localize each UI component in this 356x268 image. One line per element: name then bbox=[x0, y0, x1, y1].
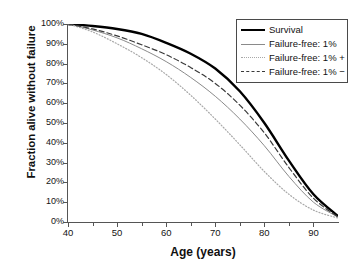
x-axis-minor-tick-mark bbox=[240, 223, 241, 226]
y-axis-tick-mark bbox=[63, 64, 68, 65]
x-axis-tick-mark bbox=[166, 223, 167, 227]
x-axis-minor-tick-mark bbox=[142, 223, 143, 226]
x-axis-tick-label: 80 bbox=[249, 227, 279, 238]
legend-line-swatch-solid-thin-icon bbox=[240, 39, 266, 49]
legend-label: Failure-free: 1% bbox=[269, 39, 337, 49]
legend-line-swatch-dashed-icon bbox=[240, 67, 266, 77]
y-axis-tick-label: 40% bbox=[30, 138, 64, 147]
y-axis-tick-mark bbox=[63, 44, 68, 45]
legend-label: Failure-free: 1% − bbox=[269, 67, 345, 77]
legend-label: Failure-free: 1% + bbox=[269, 53, 345, 63]
legend-item-failure-free-1pct-plus[interactable]: Failure-free: 1% + bbox=[240, 51, 345, 65]
x-axis-minor-tick-mark bbox=[191, 223, 192, 226]
y-axis-tick-label: 100% bbox=[30, 19, 64, 28]
y-axis-tick-label: 70% bbox=[30, 78, 64, 87]
legend-item-survival[interactable]: Survival bbox=[240, 23, 345, 37]
x-axis-tick-mark bbox=[313, 223, 314, 227]
x-axis-title: Age (years) bbox=[68, 245, 338, 259]
x-axis-tick-label: 40 bbox=[53, 227, 83, 238]
y-axis-tick-mark bbox=[63, 103, 68, 104]
y-axis-tick-mark bbox=[63, 163, 68, 164]
x-axis-tick-label: 90 bbox=[298, 227, 328, 238]
x-axis-tick-mark bbox=[264, 223, 265, 227]
x-axis-minor-tick-mark bbox=[289, 223, 290, 226]
x-axis-tick-mark bbox=[215, 223, 216, 227]
y-axis-tick-mark bbox=[63, 182, 68, 183]
x-axis-tick-label: 70 bbox=[200, 227, 230, 238]
y-axis-tick-label: 20% bbox=[30, 177, 64, 186]
y-axis-tick-label: 90% bbox=[30, 39, 64, 48]
y-axis-tick-mark bbox=[63, 202, 68, 203]
y-axis-tick-label: 80% bbox=[30, 59, 64, 68]
y-axis-tick-mark bbox=[63, 83, 68, 84]
legend-label: Survival bbox=[269, 25, 303, 35]
x-axis-tick-label: 60 bbox=[151, 227, 181, 238]
legend-item-failure-free-1pct-minus[interactable]: Failure-free: 1% − bbox=[240, 65, 345, 79]
x-axis-tick-labels: 405060708090 bbox=[0, 227, 356, 241]
legend: Survival Failure-free: 1% Failure-free: … bbox=[236, 19, 348, 83]
legend-line-swatch-dotted-icon bbox=[240, 53, 266, 63]
y-axis-tick-label: 10% bbox=[30, 197, 64, 206]
y-axis-tick-mark bbox=[63, 123, 68, 124]
x-axis-tick-label: 50 bbox=[102, 227, 132, 238]
x-axis-tick-mark bbox=[68, 223, 69, 227]
y-axis-tick-label: 60% bbox=[30, 98, 64, 107]
y-axis-tick-label: 50% bbox=[30, 118, 64, 127]
survival-chart-figure: Fraction alive without failure Age (year… bbox=[0, 0, 356, 268]
y-axis-tick-mark bbox=[63, 143, 68, 144]
legend-item-failure-free-1pct[interactable]: Failure-free: 1% bbox=[240, 37, 345, 51]
y-axis-tick-label: 30% bbox=[30, 158, 64, 167]
legend-line-swatch-solid-thick-icon bbox=[240, 25, 266, 35]
x-axis-line bbox=[67, 222, 339, 223]
x-axis-tick-mark bbox=[117, 223, 118, 227]
x-axis-minor-tick-mark bbox=[93, 223, 94, 226]
y-axis-tick-mark bbox=[63, 24, 68, 25]
y-axis-tick-label: 0% bbox=[30, 217, 64, 226]
